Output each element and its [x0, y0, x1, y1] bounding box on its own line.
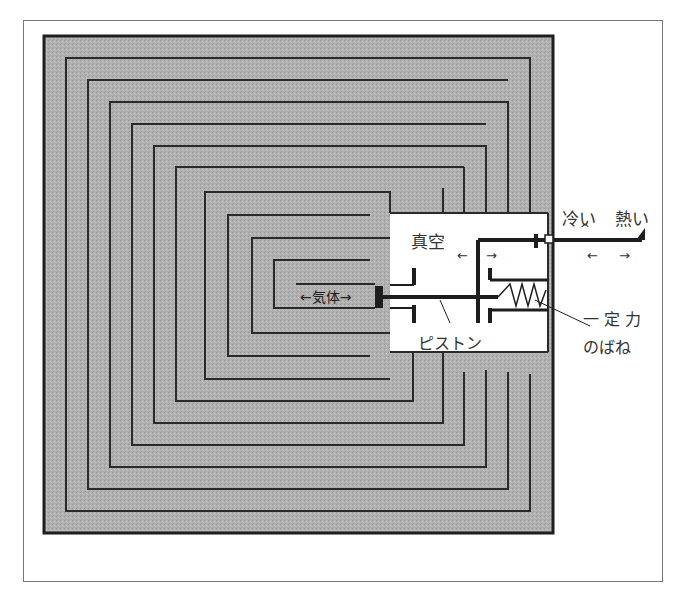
label-cold: 冷い: [562, 205, 596, 230]
arrow-right-vacuum: →: [486, 248, 497, 263]
arrow-right-lever: →: [619, 248, 630, 263]
label-spring: のばね: [583, 334, 631, 358]
label-hot: 熱い: [615, 205, 649, 230]
label-constant-force: 一 定 力: [583, 306, 641, 330]
cold-caret: ^: [580, 222, 590, 236]
label-gas: ←気体→: [300, 286, 351, 306]
piston-head: [375, 286, 383, 308]
arrow-left-vacuum: ←: [457, 248, 468, 263]
arrow-left-lever: ←: [587, 248, 598, 263]
label-vacuum: 真空: [411, 228, 445, 253]
label-piston: ピストン: [418, 330, 482, 354]
